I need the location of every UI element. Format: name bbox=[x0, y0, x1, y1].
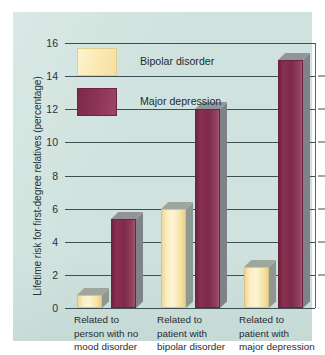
bar-side bbox=[303, 53, 310, 308]
right-tick bbox=[318, 175, 325, 176]
y-tick-label: 14 bbox=[46, 70, 58, 82]
right-tick bbox=[318, 142, 325, 143]
bar-depression-group3 bbox=[278, 60, 303, 308]
bar-side bbox=[220, 103, 227, 308]
x-category-line: Related to bbox=[157, 313, 225, 327]
right-tick bbox=[318, 109, 325, 110]
x-category-line: bipolar disorder bbox=[157, 340, 225, 354]
y-tick-label: 8 bbox=[52, 170, 58, 182]
bar-face bbox=[161, 209, 186, 308]
y-tick-label: 2 bbox=[52, 269, 58, 281]
legend-label-bipolar: Bipolar disorder bbox=[140, 55, 214, 67]
bar-depression-group1 bbox=[111, 219, 136, 308]
y-tick-label: 10 bbox=[46, 136, 58, 148]
bar-face bbox=[244, 267, 269, 308]
y-tick-label: 0 bbox=[52, 302, 58, 314]
bar-depression-group2 bbox=[195, 109, 220, 308]
x-category-line: person with no bbox=[74, 327, 138, 341]
chart-panel: Lifetime risk for first-degree relatives… bbox=[13, 12, 312, 341]
right-tick bbox=[318, 76, 325, 77]
bar-side bbox=[269, 260, 276, 308]
x-category-line: patient with bbox=[239, 327, 315, 341]
bar-face bbox=[195, 109, 220, 308]
y-tick-label: 4 bbox=[52, 236, 58, 248]
bar-face bbox=[278, 60, 303, 308]
right-tick bbox=[318, 208, 325, 209]
bar-bipolar-group2 bbox=[161, 209, 186, 308]
x-category-line: Related to bbox=[239, 313, 315, 327]
right-axis-spine bbox=[315, 43, 316, 308]
x-category-label: Related topatient withmajor depression bbox=[239, 313, 315, 354]
bar-face bbox=[77, 295, 102, 308]
x-category-label: Related topatient withbipolar disorder bbox=[157, 313, 225, 354]
right-tick bbox=[318, 241, 325, 242]
bar-bipolar-group1 bbox=[77, 295, 102, 308]
x-category-label: Related toperson with nomood disorder bbox=[74, 313, 138, 354]
bar-side bbox=[136, 212, 143, 308]
legend-item-bipolar: Bipolar disorder bbox=[77, 48, 267, 78]
legend-label-depression: Major depression bbox=[140, 95, 221, 107]
right-tick bbox=[318, 274, 325, 275]
bar-face bbox=[111, 219, 136, 308]
legend: Bipolar disorder Major depression bbox=[77, 48, 267, 128]
x-category-line: mood disorder bbox=[74, 340, 138, 354]
y-tick-label: 16 bbox=[46, 37, 58, 49]
y-tick-label: 12 bbox=[46, 103, 58, 115]
bar-bipolar-group3 bbox=[244, 267, 269, 308]
x-category-line: Related to bbox=[74, 313, 138, 327]
gridline bbox=[65, 43, 315, 44]
gridline bbox=[65, 308, 315, 309]
y-tick-label: 6 bbox=[52, 203, 58, 215]
y-axis-title: Lifetime risk for first-degree relatives… bbox=[30, 36, 46, 336]
x-axis-labels: Related toperson with nomood disorderRel… bbox=[65, 313, 315, 355]
bipolar-swatch bbox=[77, 48, 117, 76]
x-category-line: major depression bbox=[239, 340, 315, 354]
depression-swatch bbox=[77, 88, 117, 116]
legend-item-depression: Major depression bbox=[77, 88, 267, 118]
bar-side bbox=[186, 202, 193, 308]
x-category-line: patient with bbox=[157, 327, 225, 341]
